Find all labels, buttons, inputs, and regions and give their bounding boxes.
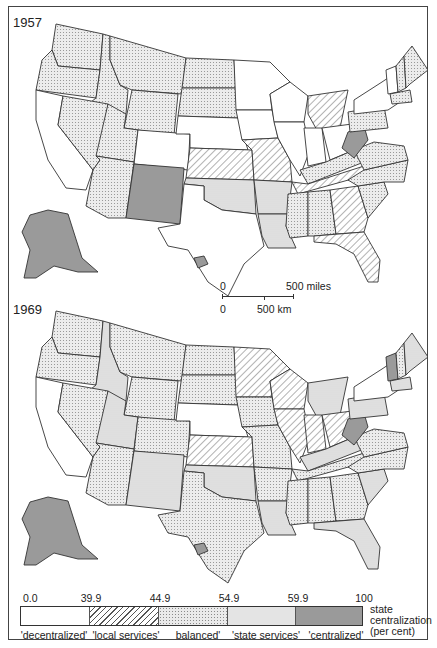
- state-ks: [186, 435, 254, 467]
- state-ms: [286, 192, 308, 238]
- legend-break: 44.9: [150, 592, 170, 604]
- state-nd: [182, 345, 236, 375]
- legend: 0.0 39.9 44.9 54.9 59.9 100 'decentraliz…: [16, 592, 426, 640]
- state-me: [404, 46, 428, 88]
- state-co: [134, 130, 190, 170]
- state-ak: [22, 497, 98, 565]
- state-mt: [110, 323, 186, 381]
- state-in: [304, 128, 326, 166]
- legend-swatch-centralized: [296, 607, 362, 625]
- state-ia: [236, 110, 278, 140]
- state-ak: [22, 210, 98, 278]
- legend-label-state-services: 'state services': [232, 629, 300, 641]
- legend-label-decentralized: 'decentralized': [21, 629, 87, 641]
- scale-miles-label: 500 miles: [286, 280, 331, 292]
- state-me: [404, 333, 428, 375]
- legend-break: 0.0: [23, 592, 38, 604]
- legend-swatch-decentralized: [21, 607, 90, 625]
- map-1969: [8, 297, 428, 587]
- state-ms: [286, 479, 308, 525]
- legend-unit-label: state centralization (per cent): [370, 604, 437, 637]
- scale-miles-zero: 0: [220, 280, 226, 292]
- state-wy: [124, 377, 178, 422]
- legend-bar: [20, 606, 363, 626]
- state-ia: [236, 397, 278, 427]
- legend-swatch-balanced: [159, 607, 228, 625]
- legend-break: 54.9: [219, 592, 239, 604]
- state-sd: [178, 375, 238, 405]
- state-ks: [186, 148, 254, 180]
- legend-unit-line: (per cent): [370, 626, 437, 637]
- legend-label-local-services: 'local services': [92, 629, 159, 641]
- legend-break: 59.9: [288, 592, 308, 604]
- state-wa: [52, 24, 103, 70]
- state-nm: [126, 164, 184, 224]
- legend-swatch-local-services: [90, 607, 159, 625]
- state-fl: [314, 519, 380, 569]
- state-nd: [182, 58, 236, 88]
- state-mt: [110, 36, 186, 94]
- state-sd: [178, 88, 238, 118]
- legend-label-balanced: balanced': [176, 629, 221, 641]
- legend-breaks: 0.0 39.9 44.9 54.9 59.9 100: [16, 592, 366, 604]
- state-nm: [126, 451, 184, 511]
- state-fl: [314, 232, 380, 282]
- state-ar: [254, 180, 292, 214]
- state-ar: [254, 467, 292, 501]
- state-wy: [124, 90, 178, 135]
- map-1957: [8, 10, 428, 300]
- legend-label-centralized: 'centralized': [309, 629, 364, 641]
- state-wa: [52, 311, 103, 357]
- state-co: [134, 417, 190, 457]
- legend-break: 39.9: [81, 592, 101, 604]
- legend-swatch-state-services: [228, 607, 296, 625]
- state-in: [304, 415, 326, 453]
